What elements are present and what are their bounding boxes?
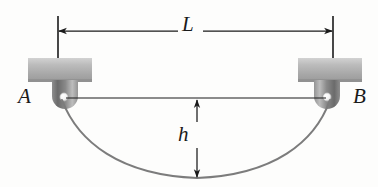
support-left — [28, 58, 92, 109]
support-block-right — [298, 58, 362, 82]
label-sag-h: h — [178, 124, 189, 145]
cable-curve — [62, 100, 330, 178]
dimension-L-group — [58, 16, 333, 62]
support-block-left — [28, 58, 92, 82]
label-point-A: A — [18, 86, 31, 107]
label-point-B: B — [353, 86, 366, 107]
label-span-L: L — [182, 14, 194, 35]
cable-sag-diagram: L h A B — [0, 0, 378, 187]
